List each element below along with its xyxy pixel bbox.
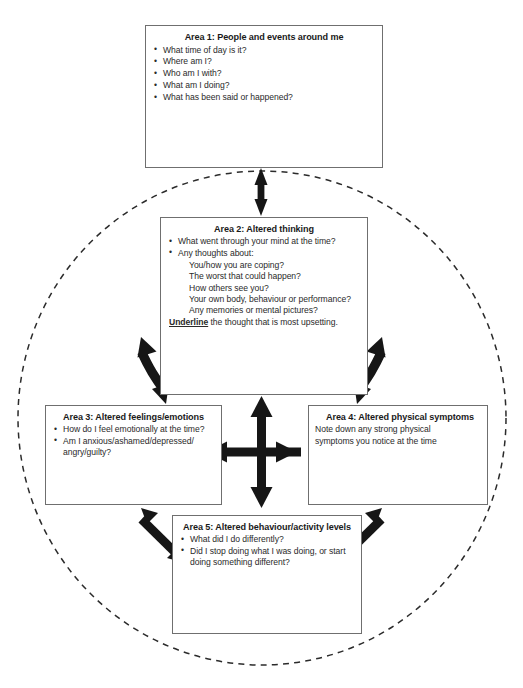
- area-3-title: Area 3: Altered feelings/emotions: [52, 411, 215, 423]
- area-3-box: Area 3: Altered feelings/emotions How do…: [45, 405, 222, 505]
- area-1-bullet: What am I doing?: [152, 80, 376, 91]
- area-2-sub-item: You/how you are coping?: [167, 260, 361, 271]
- area-2-sub-item: How others see you?: [167, 283, 361, 294]
- area-4-text-line: Note down any strong physical: [315, 424, 481, 436]
- area-5-title: Area 5: Altered behaviour/activity level…: [179, 521, 355, 533]
- area-2-sub-item: The worst that could happen?: [167, 271, 361, 282]
- area-2-sub-item: Your own body, behaviour or performance?: [167, 294, 361, 305]
- area-1-title: Area 1: People and events around me: [152, 31, 376, 43]
- area-5-box: Area 5: Altered behaviour/activity level…: [172, 515, 362, 634]
- area-5-bullet: What did I do differently?: [179, 534, 355, 545]
- area-3-bullet-list: How do I feel emotionally at the time? A…: [52, 424, 215, 459]
- area-4-text-line: symptoms you notice at the time: [315, 436, 481, 448]
- area-2-bullet-list: What went through your mind at the time?…: [167, 236, 361, 259]
- arrow-area1-area2: [255, 168, 268, 216]
- area-2-footer-rest: the thought that is most upsetting.: [208, 317, 338, 327]
- area-3-bullet: Am I anxious/ashamed/depressed/ angry/gu…: [52, 436, 215, 459]
- area-1-bullet: Where am I?: [152, 56, 376, 67]
- area-5-bullet-list: What did I do differently? Did I stop do…: [179, 534, 355, 569]
- area-1-bullet: What time of day is it?: [152, 45, 376, 56]
- area-2-sub-list: You/how you are coping? The worst that c…: [167, 260, 361, 317]
- area-2-bullet: Any thoughts about:: [167, 248, 361, 259]
- area-1-bullet: What has been said or happened?: [152, 92, 376, 103]
- area-2-title: Area 2: Altered thinking: [167, 223, 361, 235]
- area-4-title: Area 4: Altered physical symptoms: [315, 411, 481, 423]
- area-5-bullet: Did I stop doing what I was doing, or st…: [179, 546, 355, 569]
- area-2-footer-instruction: Underline the thought that is most upset…: [167, 317, 361, 329]
- area-4-box: Area 4: Altered physical symptoms Note d…: [308, 405, 488, 505]
- area-2-sub-item: Any memories or mental pictures?: [167, 305, 361, 316]
- area-2-bullet: What went through your mind at the time?: [167, 236, 361, 247]
- area-2-box: Area 2: Altered thinking What went throu…: [160, 217, 368, 395]
- diagram-page: .solid-arrow { fill: #161616; } .dash-ci…: [0, 0, 523, 688]
- area-1-box: Area 1: People and events around me What…: [145, 25, 383, 168]
- area-1-bullet: Who am I with?: [152, 68, 376, 79]
- area-3-bullet: How do I feel emotionally at the time?: [52, 424, 215, 435]
- underline-keyword: Underline: [169, 317, 208, 327]
- area-1-bullet-list: What time of day is it? Where am I? Who …: [152, 45, 376, 104]
